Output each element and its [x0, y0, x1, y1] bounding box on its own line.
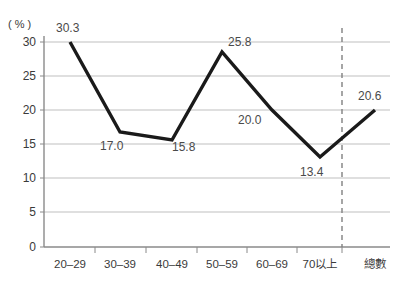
value-label-60-69: 20.0 [238, 113, 262, 127]
value-label-50-59: 25.8 [228, 35, 252, 49]
value-label-40-49: 15.8 [172, 140, 196, 154]
x-tick-label-total: 總數 [364, 257, 387, 270]
x-tick-label-70-plus: 70以上 [303, 258, 338, 270]
x-tick-label-20-29: 20–29 [54, 258, 86, 270]
x-axis-ticks [95, 247, 342, 253]
line-chart: ( % ) 30 25 20 15 10 5 0 30.3 17.0 15.8 … [0, 0, 404, 288]
x-tick-label-30-39: 30–39 [104, 258, 136, 270]
y-tick-label-30: 30 [23, 35, 37, 49]
x-tick-label-50-59: 50–59 [206, 258, 238, 270]
value-label-20-29: 30.3 [56, 21, 80, 35]
y-tick-label-25: 25 [23, 69, 37, 83]
y-tick-label-5: 5 [29, 205, 36, 219]
x-tick-label-60-69: 60–69 [256, 258, 288, 270]
value-label-30-39: 17.0 [100, 139, 124, 153]
y-tick-label-20: 20 [23, 103, 37, 117]
y-axis-unit-label: ( % ) [8, 18, 31, 30]
value-label-total: 20.6 [358, 89, 382, 103]
gridlines [44, 42, 390, 212]
x-tick-label-40-49: 40–49 [156, 258, 188, 270]
value-label-70-plus: 13.4 [300, 165, 324, 179]
y-tick-label-10: 10 [23, 171, 37, 185]
y-tick-label-0: 0 [29, 240, 36, 254]
chart-canvas: ( % ) 30 25 20 15 10 5 0 30.3 17.0 15.8 … [0, 0, 404, 288]
y-tick-label-15: 15 [23, 137, 37, 151]
